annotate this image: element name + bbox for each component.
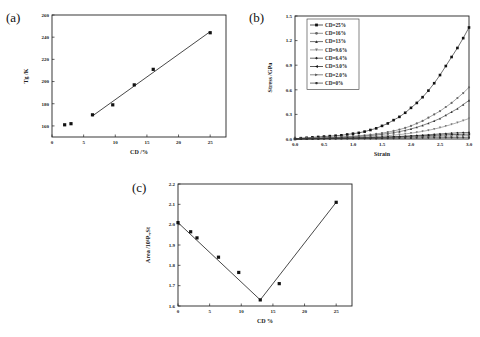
legend: CD=25%CD=16%CD=13%CD=9.6%CD=6.4%CD=3.0%C… (307, 19, 359, 89)
legend-label: CD=6.4% (325, 55, 347, 61)
data-point (387, 122, 390, 125)
data-point (398, 128, 400, 130)
y-tick-label: 1.8 (169, 263, 176, 268)
data-point (445, 65, 448, 68)
data-point (111, 103, 114, 106)
legend-label: CD=25% (325, 22, 346, 28)
y-tick-label: 260 (42, 13, 50, 18)
y-tick-label: 220 (42, 57, 50, 62)
x-tick-label: 2.0 (408, 142, 415, 147)
data-point (416, 122, 418, 124)
data-point (462, 37, 465, 40)
fit-line (92, 32, 210, 116)
data-point (91, 113, 94, 116)
data-point (237, 271, 240, 274)
data-point (176, 221, 179, 224)
y-tick-label: 0.6 (286, 88, 293, 93)
data-point (346, 133, 349, 136)
data-point (462, 136, 464, 138)
x-tick-label: 0 (177, 309, 180, 314)
y-tick-label: 1.2 (286, 38, 293, 43)
data-point (450, 56, 453, 59)
panel-label: (b) (249, 10, 264, 25)
data-point (278, 282, 281, 285)
data-point (421, 96, 424, 99)
data-point (427, 89, 430, 92)
y-tick-label: 2.1 (169, 202, 176, 207)
x-tick-label: 0 (51, 140, 54, 145)
y-tick-label: 0.0 (286, 137, 293, 142)
legend-label: CD=3.0% (325, 63, 347, 69)
chart-c: (c)05101520251.61.71.81.92.02.12.2CD %Ar… (132, 180, 352, 324)
data-point (369, 129, 372, 132)
data-point (392, 119, 395, 122)
data-point (439, 74, 442, 77)
data-point (189, 230, 192, 233)
x-tick-label: 5 (208, 309, 211, 314)
plot-frame (178, 184, 352, 306)
data-point (352, 132, 355, 135)
data-point (375, 127, 378, 130)
x-tick-label: 2.5 (437, 142, 444, 147)
data-point (433, 82, 436, 85)
data-point (410, 107, 413, 110)
x-tick-label: 15 (144, 140, 150, 145)
x-tick-label: 10 (239, 309, 245, 314)
y-tick-label: 2.2 (169, 182, 176, 187)
series-cd-13- (294, 99, 470, 140)
y-tick-label: 0.9 (286, 63, 293, 68)
x-tick-label: 15 (270, 309, 276, 314)
legend-label: CD=0% (325, 80, 343, 86)
legend-label: CD=2.0% (325, 72, 347, 78)
data-point (335, 201, 338, 204)
x-tick-label: 1.0 (350, 142, 357, 147)
data-point (404, 111, 407, 114)
chart-a: (a)0510152025160180200220240260CD /%Tg /… (6, 10, 226, 155)
data-point (468, 136, 470, 138)
x-tick-label: 25 (334, 309, 340, 314)
data-point (468, 86, 470, 88)
data-point (133, 83, 136, 86)
data-point (468, 99, 470, 101)
data-point (217, 256, 220, 259)
data-point (69, 122, 72, 125)
y-tick-label: 2.0 (169, 222, 176, 227)
data-point (63, 123, 66, 126)
panel-label: (a) (6, 10, 20, 25)
plot-frame (52, 15, 226, 137)
data-point (410, 125, 412, 127)
data-point (468, 26, 471, 29)
x-tick-label: 20 (176, 140, 182, 145)
data-point (427, 117, 429, 119)
x-axis-label: CD % (257, 318, 273, 324)
x-tick-label: 20 (302, 309, 308, 314)
data-point (363, 130, 366, 133)
data-point (445, 106, 447, 108)
y-tick-label: 1.7 (169, 283, 176, 288)
legend-marker (315, 32, 318, 35)
y-axis-label: Area /10⁶Pₐ,St (145, 227, 151, 263)
data-point (433, 113, 435, 115)
data-point (456, 97, 458, 99)
x-tick-label: 5 (82, 140, 85, 145)
data-point (462, 92, 464, 94)
x-tick-label: 3.0 (466, 142, 473, 147)
y-tick-label: 240 (42, 35, 50, 40)
x-tick-label: 0.5 (321, 142, 328, 147)
data-point (398, 116, 401, 119)
y-axis-label: Stress /GPa (267, 63, 273, 93)
fit-line (178, 202, 336, 300)
y-axis-label: Tg /K (23, 68, 29, 83)
data-point (451, 102, 453, 104)
legend-label: CD=16% (325, 30, 346, 36)
data-point (422, 120, 424, 122)
data-point (259, 298, 262, 301)
x-axis-label: CD /% (130, 149, 148, 155)
data-point (152, 68, 155, 71)
data-point (209, 31, 212, 34)
data-point (195, 236, 198, 239)
y-tick-label: 1.6 (169, 304, 176, 309)
legend-label: CD=9.6% (325, 47, 347, 53)
data-point (404, 127, 406, 129)
y-tick-label: 1.5 (286, 14, 293, 19)
